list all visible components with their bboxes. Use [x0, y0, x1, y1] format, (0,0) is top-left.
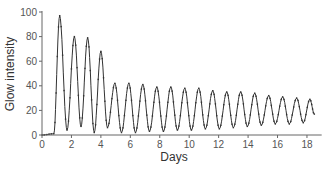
data-point-marker	[261, 124, 262, 125]
data-point-marker	[282, 96, 283, 97]
data-point-marker	[88, 46, 89, 47]
data-point-marker	[180, 115, 181, 116]
glow-intensity-line	[42, 16, 314, 135]
data-point-marker	[133, 127, 134, 128]
x-tick-label: 14	[243, 139, 255, 150]
data-point-marker	[209, 103, 210, 104]
data-point-marker	[159, 102, 160, 103]
x-tick-label: 16	[272, 139, 284, 150]
data-point-marker	[147, 126, 148, 127]
data-point-marker	[146, 114, 147, 115]
data-point-marker	[108, 123, 109, 124]
data-point-marker	[191, 129, 192, 130]
data-point-marker	[257, 104, 258, 105]
data-point-marker	[78, 95, 79, 96]
data-point-marker	[198, 88, 199, 89]
data-point-marker	[195, 102, 196, 103]
data-point-marker	[205, 128, 206, 129]
data-point-marker	[141, 88, 142, 89]
data-point-marker	[225, 95, 226, 96]
data-point-marker	[304, 120, 305, 121]
data-point-marker	[138, 115, 139, 116]
data-point-marker	[63, 90, 64, 91]
data-point-marker	[241, 95, 242, 96]
data-point-marker	[213, 94, 214, 95]
data-point-marker	[237, 104, 238, 105]
glow-intensity-chart: 020406080100024681012141618 Days Glow in…	[0, 0, 326, 170]
data-point-marker	[230, 115, 231, 116]
data-point-marker	[80, 126, 81, 127]
data-point-marker	[259, 121, 260, 122]
data-point-marker	[273, 121, 274, 122]
data-point-marker	[208, 115, 209, 116]
data-point-marker	[105, 120, 106, 121]
data-point-marker	[234, 124, 235, 125]
x-axis-title: Days	[160, 150, 187, 164]
data-point-marker	[87, 37, 88, 38]
data-point-marker	[110, 112, 111, 113]
data-point-marker	[96, 104, 97, 105]
data-point-marker	[275, 123, 276, 124]
plot-area	[41, 15, 315, 136]
data-point-marker	[54, 122, 55, 123]
data-point-marker	[164, 126, 165, 127]
data-point-marker	[311, 104, 312, 105]
data-point-marker	[189, 125, 190, 126]
data-point-marker	[71, 68, 72, 69]
data-point-marker	[299, 106, 300, 107]
data-point-marker	[278, 114, 279, 115]
data-point-marker	[157, 91, 158, 92]
data-point-marker	[72, 45, 73, 46]
data-point-marker	[60, 26, 61, 27]
data-point-marker	[296, 97, 297, 98]
data-point-marker	[240, 91, 241, 92]
data-point-marker	[281, 99, 282, 100]
data-point-marker	[223, 104, 224, 105]
data-point-marker	[55, 92, 56, 93]
data-point-marker	[201, 102, 202, 103]
data-point-marker	[117, 100, 118, 101]
data-point-marker	[188, 115, 189, 116]
data-point-marker	[102, 58, 103, 59]
data-point-marker	[229, 104, 230, 105]
data-point-marker	[104, 101, 105, 102]
data-point-marker	[51, 133, 52, 134]
y-tick-label: 40	[26, 80, 38, 91]
x-tick-label: 0	[39, 139, 45, 150]
data-point-marker	[57, 56, 58, 57]
data-point-marker	[310, 100, 311, 101]
data-point-marker	[220, 125, 221, 126]
data-point-marker	[118, 115, 119, 116]
data-point-marker	[170, 86, 171, 87]
data-point-marker	[98, 79, 99, 80]
x-tick-label: 18	[301, 139, 313, 150]
y-tick-label: 0	[31, 130, 37, 141]
data-point-marker	[111, 98, 112, 99]
data-point-marker	[174, 115, 175, 116]
data-point-marker	[68, 120, 69, 121]
y-tick-label: 80	[26, 31, 38, 42]
data-point-marker	[166, 115, 167, 116]
data-point-marker	[121, 132, 122, 133]
data-point-marker	[231, 124, 232, 125]
data-point-marker	[150, 126, 151, 127]
data-point-marker	[212, 90, 213, 91]
data-point-marker	[131, 100, 132, 101]
data-point-marker	[247, 126, 248, 127]
data-point-marker	[79, 117, 80, 118]
data-point-marker	[283, 99, 284, 100]
data-point-marker	[173, 101, 174, 102]
data-point-marker	[92, 123, 93, 124]
data-point-marker	[226, 91, 227, 92]
data-point-marker	[197, 92, 198, 93]
data-point-marker	[287, 121, 288, 122]
data-point-marker	[132, 115, 133, 116]
data-point-marker	[183, 92, 184, 93]
data-point-marker	[199, 91, 200, 92]
data-point-marker	[243, 103, 244, 104]
data-point-marker	[169, 91, 170, 92]
data-point-marker	[264, 114, 265, 115]
data-point-marker	[62, 55, 63, 56]
data-point-marker	[75, 44, 76, 45]
data-point-marker	[84, 68, 85, 69]
